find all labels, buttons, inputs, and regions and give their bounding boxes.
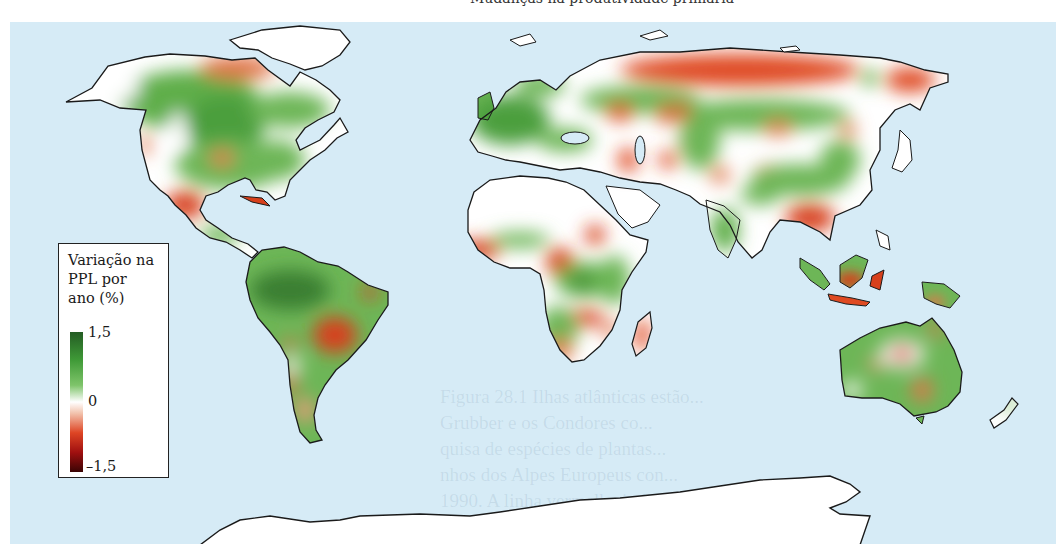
legend-title-line: PPL por [68, 270, 168, 289]
legend-title: Variação na PPL por ano (%) [68, 251, 168, 308]
north-america [66, 54, 348, 258]
world-map: Figura 28.1 Ilhas atlânticas estão... Gr… [10, 22, 1056, 544]
legend-mid-label: 0 [88, 393, 97, 409]
legend-color-scale [70, 332, 83, 472]
legend: Variação na PPL por ano (%) 1,5 0 –1,5 [58, 243, 169, 478]
cut-off-caption: Mudanças na produtividade primária [470, 0, 734, 6]
legend-title-line: Variação na [68, 251, 168, 270]
legend-title-line: ano (%) [68, 289, 168, 308]
legend-max-label: 1,5 [88, 324, 111, 340]
south-america [246, 247, 388, 443]
legend-min-label: –1,5 [86, 458, 116, 474]
antarctica [200, 476, 870, 544]
page-margin: Mudanças na produtividade primária [0, 0, 1062, 22]
